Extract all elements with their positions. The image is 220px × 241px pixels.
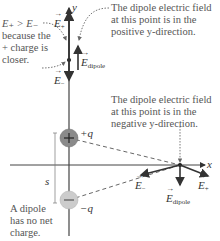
annotation-comparison: E₊ > E₋ because the + charge is closer. — [2, 18, 51, 66]
x-axis-label: x — [207, 158, 212, 170]
e-dipole-label-top: Edipole — [81, 56, 105, 70]
y-axis-label: y — [72, 1, 77, 13]
dotted-arrow-positive — [79, 8, 109, 40]
negative-charge-label: −q — [80, 202, 93, 214]
annotation-negative-direction: The dipole electric field at this point … — [111, 94, 212, 130]
e-plus-label-top: E+ — [54, 17, 65, 31]
e-plus-label-side: E+ — [198, 179, 209, 193]
dashed-line-positive — [69, 138, 180, 165]
e-dipole-label-side: Edipole — [166, 192, 190, 206]
separation-label: s — [45, 175, 49, 187]
e-minus-label-top: E− — [54, 74, 65, 88]
dashed-line-negative — [69, 165, 180, 200]
e-minus-label-side: E− — [135, 179, 146, 193]
annotation-positive-direction: The dipole electric field at this point … — [111, 2, 212, 38]
e-minus-vector-side — [141, 165, 180, 175]
positive-charge-label: +q — [80, 127, 93, 139]
annotation-no-net-charge: A dipole has no net charge. — [10, 203, 53, 239]
